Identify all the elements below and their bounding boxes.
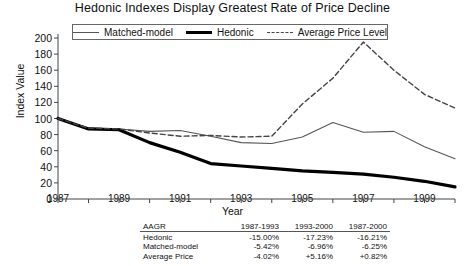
table-header-cell: 1993-2000	[282, 222, 336, 232]
aagr-table: AAGR 1987-1993 1993-2000 1987-2000 Hedon…	[140, 222, 390, 261]
table-header-cell: 1987-1993	[228, 222, 282, 232]
table-cell-label: Matched-model	[140, 242, 228, 251]
table-header-cell: AAGR	[140, 222, 228, 232]
table-header-cell: 1987-2000	[336, 222, 390, 232]
table-header-row: AAGR 1987-1993 1993-2000 1987-2000	[140, 222, 390, 232]
table-cell-value: -6.96%	[282, 242, 336, 251]
table-cell-value: +5.16%	[282, 252, 336, 261]
table-cell-value: -15.00%	[228, 232, 282, 243]
series-line-average-price-level	[58, 42, 455, 137]
chart-container: Hedonic Indexes Display Greatest Rate of…	[0, 0, 465, 266]
table-cell-value: -17.23%	[282, 232, 336, 243]
table-cell-value: -5.42%	[228, 242, 282, 251]
table-cell-value: -6.25%	[336, 242, 390, 251]
table-cell-value: +0.82%	[336, 252, 390, 261]
table-row: Average Price -4.02% +5.16% +0.82%	[140, 252, 390, 261]
table-row: Hedonic -15.00% -17.23% -16.21%	[140, 232, 390, 243]
series-line-matched-model	[58, 119, 455, 159]
table-cell-label: Hedonic	[140, 232, 228, 243]
table-cell-value: -16.21%	[336, 232, 390, 243]
table-cell-value: -4.02%	[228, 252, 282, 261]
table-cell-label: Average Price	[140, 252, 228, 261]
table-row: Matched-model -5.42% -6.96% -6.25%	[140, 242, 390, 251]
